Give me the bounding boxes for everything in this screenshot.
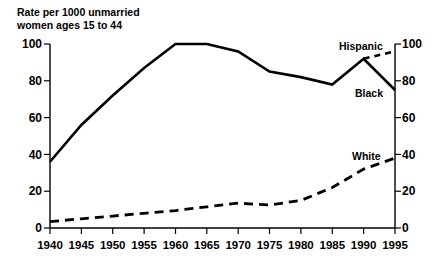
y-tick-label-right-80: 80	[402, 75, 432, 87]
chart-figure: Rate per 1000 unmarried women ages 15 to…	[0, 0, 436, 265]
y-tick-label-right-40: 40	[402, 149, 432, 161]
series-line-black	[50, 44, 395, 162]
y-ticks-right	[395, 44, 401, 228]
y-tick-label-right-60: 60	[402, 112, 432, 124]
y-tick-label-left-80: 80	[14, 75, 42, 87]
series-line-white	[50, 158, 395, 221]
x-ticks	[50, 228, 395, 234]
y-tick-label-left-20: 20	[14, 185, 42, 197]
series-line-hispanic	[364, 51, 395, 58]
series-label-black: Black	[355, 88, 383, 99]
y-tick-label-left-60: 60	[14, 112, 42, 124]
y-tick-label-left-0: 0	[14, 222, 42, 234]
x-tick-label-1995: 1995	[375, 239, 415, 251]
y-ticks-left	[44, 44, 50, 228]
y-tick-label-right-100: 100	[402, 38, 432, 50]
y-tick-label-right-20: 20	[402, 185, 432, 197]
series-label-white: White	[352, 151, 381, 162]
y-tick-label-right-0: 0	[402, 222, 432, 234]
y-tick-label-left-40: 40	[14, 149, 42, 161]
y-tick-label-left-100: 100	[14, 38, 42, 50]
series-label-hispanic: Hispanic	[339, 41, 383, 52]
